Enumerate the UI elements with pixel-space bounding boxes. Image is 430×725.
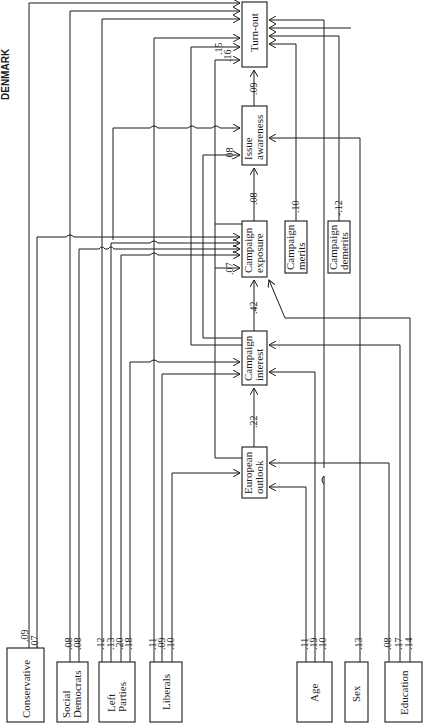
svg-text:.08: .08 <box>382 638 393 651</box>
svg-text:.42: .42 <box>248 302 259 315</box>
svg-text:demerits: demerits <box>338 232 350 270</box>
node-conservative: Conservative <box>7 648 44 722</box>
svg-text:.14: .14 <box>403 638 414 651</box>
node-campaign-interest: Campaign interest <box>242 331 267 385</box>
svg-text:awareness: awareness <box>253 115 265 160</box>
svg-text:.07: .07 <box>29 636 40 649</box>
svg-text:.18: .18 <box>123 638 134 651</box>
svg-text:Sex: Sex <box>350 685 362 702</box>
svg-text:Age: Age <box>308 684 320 702</box>
node-campaign-exposure: Campaign exposure <box>242 221 267 277</box>
svg-text:.07: .07 <box>224 263 235 276</box>
svg-text:Education: Education <box>398 670 410 715</box>
connector-lines <box>29 3 410 655</box>
svg-text:.22: .22 <box>248 416 259 429</box>
svg-text:outlook: outlook <box>253 460 265 494</box>
node-education: Education <box>385 662 422 722</box>
svg-text:Democrats: Democrats <box>71 670 83 718</box>
path-diagram: DENMARK <box>0 0 430 725</box>
svg-text:.10: .10 <box>165 638 176 651</box>
node-age: Age <box>297 662 332 722</box>
node-campaign-demerits: Campaign demerits <box>327 221 350 273</box>
svg-text:.16: .16 <box>222 50 233 63</box>
svg-text:.10: .10 <box>290 201 301 214</box>
svg-text:Liberals: Liberals <box>160 674 172 710</box>
node-european-outlook: European outlook <box>242 447 267 498</box>
node-social-democrats: Social Democrats <box>57 662 88 722</box>
svg-text:.08: .08 <box>224 148 235 161</box>
svg-text:-.12: -.12 <box>333 200 344 216</box>
svg-text:Turn-out: Turn-out <box>248 13 260 52</box>
diagram-title: DENMARK <box>0 48 11 100</box>
svg-text:exposure: exposure <box>253 233 265 273</box>
node-issue-awareness: Issue awareness <box>242 106 267 165</box>
node-turnout: Turn-out <box>242 2 267 67</box>
svg-text:Parties: Parties <box>116 682 128 712</box>
node-sex: Sex <box>345 662 368 722</box>
node-campaign-merits: Campaign merits <box>284 221 307 273</box>
svg-text:.08: .08 <box>248 193 259 206</box>
source-coefficients: .09 .07 .08 .08 .12 .13 .20 .18 .11 .09 … <box>19 630 414 651</box>
svg-text:Conservative: Conservative <box>20 660 32 718</box>
svg-text:.09: .09 <box>248 83 259 96</box>
svg-text:.13: .13 <box>353 638 364 651</box>
svg-text:merits: merits <box>295 243 307 271</box>
svg-text:.08: .08 <box>72 638 83 651</box>
node-liberals: Liberals <box>150 662 182 722</box>
node-left-parties: Left Parties <box>99 662 135 722</box>
svg-text:interest: interest <box>253 349 265 381</box>
svg-text:.10: .10 <box>317 638 328 651</box>
